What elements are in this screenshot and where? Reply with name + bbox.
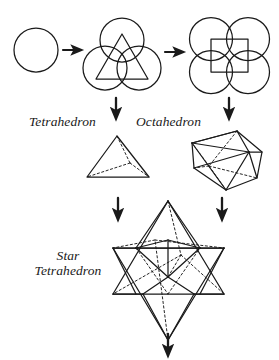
circle-triad-left — [83, 46, 127, 90]
label-star-tetrahedron: Star Tetrahedron — [26, 248, 110, 278]
diagram-canvas — [0, 0, 279, 360]
circle-triad-right — [117, 46, 161, 90]
stage-three-circles-triangle — [83, 18, 161, 90]
circle-seed — [14, 28, 58, 72]
inscribed-triangle — [96, 34, 148, 79]
label-octahedron: Octahedron — [136, 114, 201, 129]
circle-triad-top — [100, 18, 144, 62]
star-inner-visible-edges — [113, 201, 224, 340]
label-star-line-1: Star — [26, 248, 110, 263]
label-tetrahedron: Tetrahedron — [29, 114, 96, 129]
stage-octahedron-solid — [192, 131, 262, 190]
stage-star-tetrahedron-solid — [113, 201, 224, 340]
stage-tetrahedron-solid — [87, 136, 149, 177]
label-star-line-2: Tetrahedron — [26, 263, 110, 278]
octahedron-visible-edges — [192, 131, 262, 190]
stage-single-circle — [14, 28, 58, 72]
stage-four-circles-square — [190, 18, 270, 94]
inscribed-square — [211, 39, 248, 72]
tetrahedron-outline — [87, 136, 149, 177]
sacred-geometry-diagram: Tetrahedron Octahedron Star Tetrahedron — [0, 0, 279, 360]
tetrahedron-hidden-edges — [87, 136, 149, 177]
